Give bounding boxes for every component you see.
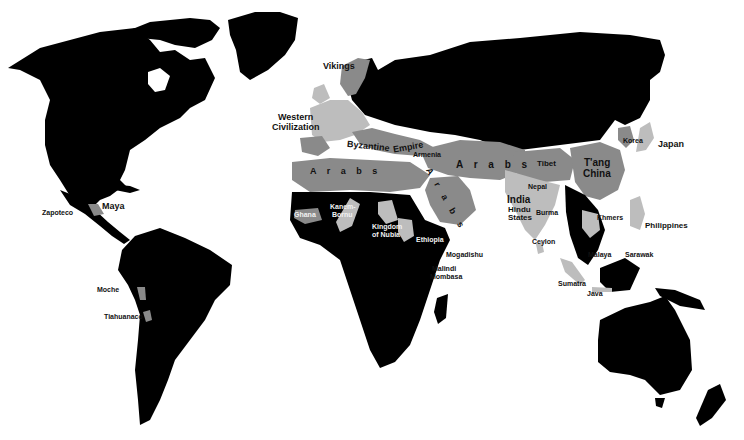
north-america <box>8 28 215 208</box>
label-moche: Moche <box>97 286 119 293</box>
label-ghana: Ghana <box>294 211 316 218</box>
australia <box>598 296 692 395</box>
label-vikings: Vikings <box>323 62 355 71</box>
label-western-civ-1: Western <box>278 113 313 122</box>
label-ceylon: Ceylon <box>532 238 555 245</box>
map-landmasses <box>0 0 744 440</box>
label-ethiopia: Ethiopia <box>416 236 444 243</box>
label-tibet: Tibet <box>537 160 556 168</box>
label-nepal: Nepal <box>528 183 547 190</box>
new-zealand <box>696 384 726 426</box>
south-america <box>118 228 232 425</box>
label-tiahuanaco: Tiahuanaco <box>104 313 143 320</box>
label-sarawak: Sarawak <box>625 251 653 258</box>
label-mombasa: Mombasa <box>430 273 462 280</box>
label-philippines: Philippines <box>645 222 688 230</box>
label-arabs-africa: A r a b s <box>310 167 381 176</box>
british-isles <box>312 84 330 104</box>
philippines <box>630 196 645 230</box>
label-burma: Burma <box>536 209 558 216</box>
label-zapoteco: Zapoteco <box>42 209 73 216</box>
world-map: Vikings Western Civilization Byzantine E… <box>0 0 744 440</box>
borneo <box>600 258 640 292</box>
label-armenia: Armenia <box>413 151 441 158</box>
tasmania <box>655 398 665 408</box>
label-arabs-mideast: A r a b s <box>456 160 531 170</box>
label-khmers: Khmers <box>597 214 623 221</box>
label-java: Java <box>587 290 603 297</box>
label-malaya: Malaya <box>588 251 611 258</box>
label-india: India <box>507 195 530 205</box>
label-mogadishu: Mogadishu <box>446 251 483 258</box>
label-tang-1: T'ang <box>584 158 610 168</box>
label-nubia-1: Kingdom <box>372 223 402 230</box>
label-korea: Korea <box>623 137 643 144</box>
label-hindu-2: States <box>508 214 532 222</box>
label-nubia-2: of Nubia <box>372 231 400 238</box>
label-maya: Maya <box>102 202 125 211</box>
label-sumatra: Sumatra <box>558 280 586 287</box>
label-tang-2: China <box>583 169 611 179</box>
eurasia <box>348 32 665 150</box>
label-malindi: Malindi <box>432 265 456 272</box>
label-japan: Japan <box>658 140 684 149</box>
label-kanem-2: Bornu <box>332 211 353 218</box>
greenland <box>228 12 298 80</box>
label-western-civ-2: Civilization <box>272 123 320 132</box>
madagascar <box>434 294 448 324</box>
label-kanem-1: Kanem- <box>330 203 356 210</box>
